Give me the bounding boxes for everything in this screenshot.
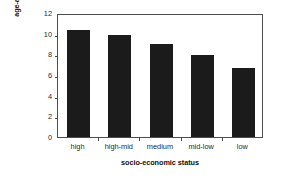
y-axis-tick-mark bbox=[55, 36, 58, 37]
x-axis-tick-label: high bbox=[71, 142, 85, 152]
y-axis-tick-label: 8 bbox=[34, 51, 52, 59]
x-axis-tick-label: mid-low bbox=[188, 142, 213, 152]
y-axis-tick-mark bbox=[55, 56, 58, 57]
x-axis-tick-mark bbox=[181, 138, 182, 141]
x-axis-tick-label: high-mid bbox=[105, 142, 133, 152]
x-axis-tick-label: medium bbox=[147, 142, 173, 152]
y-axis-tick-label: 12 bbox=[34, 10, 52, 18]
bar-chart-figure: age-adjusted incidence (per 100,000) 024… bbox=[0, 0, 286, 180]
y-axis-tick-mark bbox=[55, 118, 58, 119]
y-axis-tick-label: 6 bbox=[34, 72, 52, 80]
bar bbox=[191, 55, 214, 137]
y-axis-tick-label: 4 bbox=[34, 93, 52, 101]
bar bbox=[232, 68, 255, 137]
y-axis-tick-label: 0 bbox=[34, 134, 52, 142]
x-axis-title: socio-economic status bbox=[57, 158, 263, 167]
x-axis-tick-mark bbox=[98, 138, 99, 141]
bar bbox=[108, 35, 131, 137]
y-axis-tick-mark bbox=[55, 77, 58, 78]
x-axis-tick-label: low bbox=[237, 142, 248, 152]
y-axis-title: age-adjusted incidence (per 100,000) bbox=[9, 0, 35, 40]
x-axis-tick-mark bbox=[139, 138, 140, 141]
bar bbox=[67, 30, 90, 137]
bars-layer bbox=[58, 15, 262, 137]
y-axis-tick-label: 2 bbox=[34, 113, 52, 121]
x-axis-tick-labels: highhigh-midmediummid-lowlow bbox=[57, 142, 263, 154]
y-axis-title-line-1: age-adjusted incidence bbox=[12, 0, 22, 17]
x-axis-tick-mark bbox=[222, 138, 223, 141]
plot-area bbox=[57, 14, 263, 138]
y-axis-tick-mark bbox=[55, 98, 58, 99]
bar bbox=[150, 44, 173, 137]
y-axis-tick-label: 10 bbox=[34, 31, 52, 39]
y-axis-tick-labels: 024681012 bbox=[34, 0, 52, 180]
